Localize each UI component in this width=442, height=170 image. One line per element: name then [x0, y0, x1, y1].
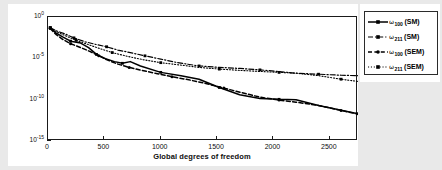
- series-marker: [105, 45, 108, 48]
- series-marker: [144, 54, 147, 57]
- x-tick-label: 2000: [252, 143, 292, 151]
- series-line: [50, 29, 358, 115]
- series-marker: [69, 42, 72, 45]
- legend-line-swatch: [367, 16, 389, 28]
- x-tick-mark: [160, 136, 161, 140]
- legend-item-omega_211_SM[interactable]: ω211(SM): [367, 29, 435, 44]
- legend-subscript: 100: [395, 20, 403, 28]
- series-line: [50, 28, 358, 76]
- x-tick-label: 500: [83, 143, 123, 151]
- series-marker: [159, 71, 162, 74]
- figure-container: Relative error 10010-510-1010-15 0500100…: [0, 0, 442, 170]
- series-marker: [111, 51, 114, 54]
- legend-symbol: ω: [389, 63, 394, 71]
- legend[interactable]: ω100(SM)ω211(SM)ω100(SEM)ω211(SEM): [364, 11, 438, 75]
- x-tick-label: 1500: [196, 143, 236, 151]
- series-omega_100_SM: [49, 26, 358, 115]
- legend-item-omega_100_SEM[interactable]: ω100(SEM): [367, 44, 435, 59]
- legend-line-swatch: [367, 61, 389, 73]
- legend-item-label: ω211(SM): [389, 33, 419, 41]
- x-axis-label: Global degrees of freedom: [47, 152, 357, 161]
- legend-subscript: 211: [395, 65, 403, 73]
- legend-symbol: ω: [389, 18, 394, 26]
- series-line: [50, 28, 358, 114]
- series-marker: [128, 66, 131, 69]
- x-tick-mark: [329, 136, 330, 140]
- series-marker: [340, 109, 343, 112]
- x-tick-mark: [47, 136, 48, 140]
- series-omega_100_SEM: [49, 27, 358, 114]
- x-tick-mark: [216, 136, 217, 140]
- legend-subscript: 211: [395, 35, 403, 43]
- y-tick-label: 10-5: [0, 53, 44, 60]
- x-tick-label: 0: [27, 143, 67, 151]
- series-marker: [97, 54, 100, 57]
- legend-method: (SM): [404, 18, 419, 26]
- series-marker: [49, 26, 52, 29]
- legend-method: (SEM): [404, 48, 424, 56]
- series-marker: [121, 62, 124, 65]
- y-tick-label: 10-15: [0, 136, 44, 143]
- legend-method: (SM): [404, 33, 419, 41]
- plot-area: [47, 16, 357, 140]
- x-tick-label: 2500: [309, 143, 349, 151]
- series-marker: [222, 87, 225, 90]
- legend-symbol: ω: [389, 48, 394, 56]
- legend-item-label: ω100(SEM): [389, 48, 424, 56]
- series-marker: [218, 68, 221, 71]
- legend-item-omega_211_SEM[interactable]: ω211(SEM): [367, 59, 435, 74]
- series-marker: [75, 39, 78, 42]
- series-marker: [278, 99, 281, 102]
- legend-item-label: ω211(SEM): [389, 63, 424, 71]
- x-tick-label: 1000: [140, 143, 180, 151]
- y-tick-label: 10-10: [0, 95, 44, 102]
- data-curves: [48, 17, 358, 141]
- series-marker: [171, 75, 174, 78]
- y-tick-label: 100: [0, 12, 44, 19]
- legend-item-omega_100_SM[interactable]: ω100(SM): [367, 14, 435, 29]
- legend-subscript: 100: [395, 50, 403, 58]
- series-marker: [159, 61, 162, 64]
- x-tick-mark: [103, 136, 104, 140]
- series-marker: [340, 78, 343, 81]
- series-marker: [278, 71, 281, 74]
- legend-item-label: ω100(SM): [389, 18, 420, 26]
- legend-method: (SEM): [404, 63, 424, 71]
- legend-line-swatch: [367, 46, 389, 58]
- legend-line-swatch: [367, 31, 389, 43]
- x-tick-mark: [272, 136, 273, 140]
- legend-symbol: ω: [389, 33, 394, 41]
